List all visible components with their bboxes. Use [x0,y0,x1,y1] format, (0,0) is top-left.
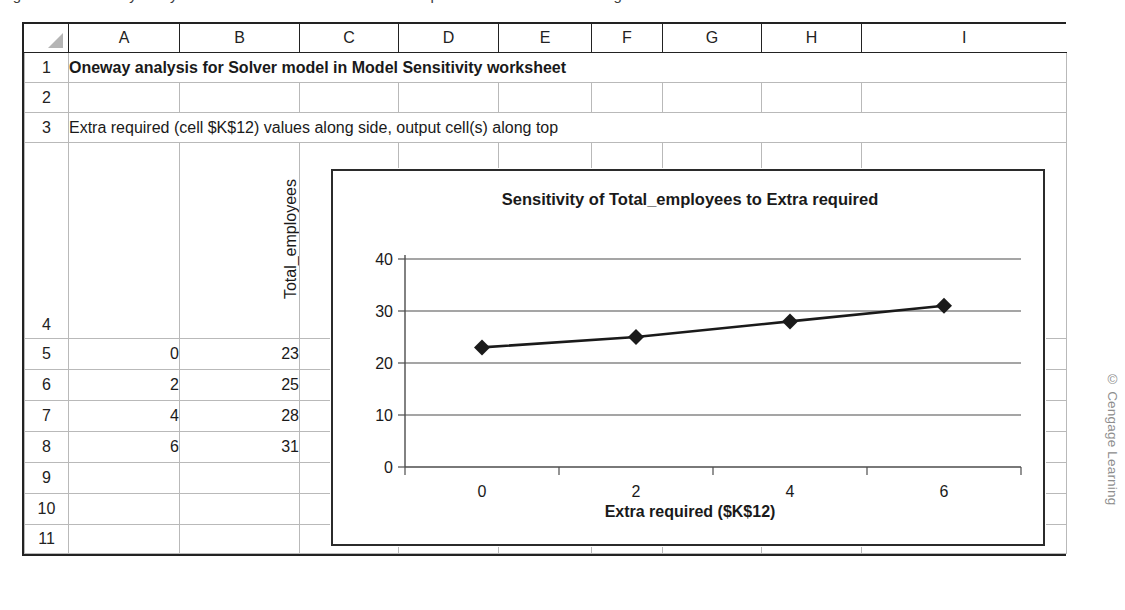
svg-text:4: 4 [786,483,795,500]
cell-b10[interactable] [180,494,300,525]
cell-b2[interactable] [180,83,300,113]
cell-i3[interactable] [862,113,1067,143]
cell-a5[interactable]: 0 [69,339,180,370]
cell-a1[interactable]: Oneway analysis for Solver model in Mode… [69,53,862,83]
column-header-e[interactable]: E [499,24,592,53]
cell-a6[interactable]: 2 [69,370,180,401]
svg-text:40: 40 [375,251,393,268]
cell-i2[interactable] [862,83,1067,113]
svg-text:0: 0 [478,483,487,500]
column-header-b[interactable]: B [180,24,300,53]
cell-b4[interactable]: Total_employees [180,143,300,339]
row-header-8[interactable]: 8 [25,432,69,463]
cell-a9[interactable] [69,463,180,494]
cell-b5[interactable]: 23 [180,339,300,370]
svg-text:20: 20 [375,355,393,372]
cell-b7[interactable]: 28 [180,401,300,432]
column-header-h[interactable]: H [762,24,862,53]
column-header-i[interactable]: I [862,24,1067,53]
chart-plot-area: 0102030400246 [333,171,1047,548]
cell-b6[interactable]: 25 [180,370,300,401]
cell-a4[interactable] [69,143,180,339]
row-header-4[interactable]: 4 [25,143,69,339]
column-header-c[interactable]: C [300,24,399,53]
svg-text:6: 6 [940,483,949,500]
cell-d2[interactable] [399,83,499,113]
row-header-1[interactable]: 1 [25,53,69,83]
cell-a2[interactable] [69,83,180,113]
publisher-credit-text: © Cengage Learning [1105,372,1120,505]
cell-e2[interactable] [499,83,592,113]
cell-h2[interactable] [762,83,862,113]
row-header-3[interactable]: 3 [25,113,69,143]
svg-text:2: 2 [632,483,641,500]
embedded-chart[interactable]: Sensitivity of Total_employees to Extra … [331,169,1045,546]
figure-caption-strip: Figure 4.30 Oneway analysis for Solver m… [0,0,1125,16]
cell-a10[interactable] [69,494,180,525]
cell-c2[interactable] [300,83,399,113]
svg-text:0: 0 [384,459,393,476]
column-header-f[interactable]: F [592,24,663,53]
cell-a3[interactable]: Extra required (cell $K$12) values along… [69,113,862,143]
cell-b4-rotated-wrap: Total_employees [180,179,299,301]
row-header-11[interactable]: 11 [25,525,69,554]
cell-a11[interactable] [69,525,180,554]
row-header-5[interactable]: 5 [25,339,69,370]
cell-b9[interactable] [180,463,300,494]
table-row: 2 [25,83,1067,113]
cell-f2[interactable] [592,83,663,113]
cell-a8[interactable]: 6 [69,432,180,463]
svg-text:10: 10 [375,407,393,424]
column-header-a[interactable]: A [69,24,180,53]
svg-text:30: 30 [375,303,393,320]
chart-xaxis-title: Extra required ($K$12) [333,503,1047,521]
figure-caption-text: Figure 4.30 Oneway analysis for Solver m… [0,0,1125,3]
row-header-2[interactable]: 2 [25,83,69,113]
select-all-triangle-icon [48,33,63,48]
cell-i1[interactable] [862,53,1067,83]
column-header-d[interactable]: D [399,24,499,53]
row-header-9[interactable]: 9 [25,463,69,494]
publisher-credit: © Cengage Learning [1105,372,1123,582]
table-row: 1 Oneway analysis for Solver model in Mo… [25,53,1067,83]
select-all-corner[interactable] [25,24,69,53]
row-header-10[interactable]: 10 [25,494,69,525]
cell-g2[interactable] [663,83,762,113]
table-row: 3 Extra required (cell $K$12) values alo… [25,113,1067,143]
cell-b4-label: Total_employees [281,179,299,299]
column-header-g[interactable]: G [663,24,762,53]
row-header-6[interactable]: 6 [25,370,69,401]
cell-b8[interactable]: 31 [180,432,300,463]
row-header-7[interactable]: 7 [25,401,69,432]
column-header-row: A B C D E F G H I [25,24,1067,53]
cell-a7[interactable]: 4 [69,401,180,432]
cell-b11[interactable] [180,525,300,554]
